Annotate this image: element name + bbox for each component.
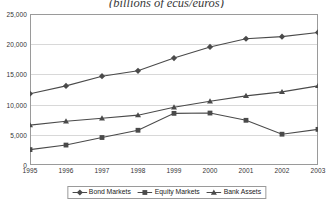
data-point-marker: [207, 44, 213, 50]
x-axis-tick-label: 2003: [311, 167, 326, 174]
data-point-marker: [315, 29, 318, 35]
data-point-marker: [100, 135, 105, 140]
data-point-marker: [64, 143, 69, 148]
data-point-marker: [316, 127, 318, 132]
data-point-marker: [172, 111, 177, 116]
data-point-marker: [315, 83, 318, 88]
series-line: [30, 113, 318, 150]
x-axis-tick-label: 1999: [167, 167, 182, 174]
legend-label: Bank Assets: [224, 189, 261, 196]
x-axis-tick-label: 1995: [23, 167, 38, 174]
data-point-marker: [208, 111, 213, 116]
x-axis-tick-label: 2002: [275, 167, 290, 174]
data-point-marker: [136, 128, 141, 133]
data-point-marker: [171, 55, 177, 61]
data-point-marker: [30, 91, 33, 97]
legend-item[interactable]: Bond Markets: [72, 188, 131, 197]
data-point-marker: [135, 68, 141, 74]
x-axis-tick-label: 1997: [95, 167, 110, 174]
y-axis: 05,00010,00015,00020,00025,000: [0, 14, 30, 165]
legend-marker-square-icon: [138, 188, 153, 197]
plot-lines: [30, 14, 318, 165]
legend-item[interactable]: Bank Assets: [207, 188, 261, 197]
series-line: [30, 32, 318, 93]
data-point-marker: [143, 190, 148, 195]
data-point-marker: [30, 147, 32, 152]
legend-item[interactable]: Equity Markets: [138, 188, 200, 197]
legend-label: Equity Markets: [155, 189, 200, 196]
y-axis-tick-label: 20,000: [0, 41, 30, 48]
data-point-marker: [63, 83, 69, 89]
chart-container: (billions of ecus/euros) 05,00010,00015,…: [0, 0, 333, 201]
y-axis-tick-label: 10,000: [0, 101, 30, 108]
chart-title: (billions of ecus/euros): [0, 0, 333, 8]
data-point-marker: [99, 73, 105, 79]
legend-marker-triangle-icon: [207, 188, 222, 197]
legend-marker-diamond-icon: [72, 188, 87, 197]
data-point-marker: [76, 189, 82, 195]
x-axis: 199519961997199819992000200120022003: [30, 167, 318, 179]
data-point-marker: [243, 36, 249, 42]
data-point-marker: [280, 132, 285, 137]
x-axis-tick-label: 2000: [203, 167, 218, 174]
data-point-marker: [279, 34, 285, 40]
x-axis-tick-label: 1998: [131, 167, 146, 174]
x-axis-tick-label: 2001: [239, 167, 254, 174]
y-axis-tick-label: 15,000: [0, 71, 30, 78]
y-axis-tick-label: 5,000: [0, 131, 30, 138]
y-axis-tick-label: 25,000: [0, 11, 30, 18]
legend-label: Bond Markets: [89, 189, 131, 196]
series-bank-assets: [30, 83, 318, 127]
data-point-marker: [244, 118, 249, 123]
series-equity-markets: [30, 111, 318, 152]
chart-legend: Bond MarketsEquity MarketsBank Assets: [67, 186, 266, 199]
series-bond-markets: [30, 29, 318, 97]
x-axis-tick-label: 1996: [59, 167, 74, 174]
